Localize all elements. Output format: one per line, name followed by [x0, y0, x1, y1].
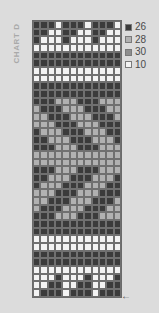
chart-cell [106, 205, 113, 213]
chart-cell [99, 144, 106, 152]
chart-cell [114, 121, 121, 129]
chart-cell [55, 189, 62, 197]
chart-cell [114, 212, 121, 220]
chart-cell [33, 228, 40, 236]
chart-cell [84, 189, 91, 197]
chart-cell [114, 182, 121, 190]
chart-cell [55, 121, 62, 129]
legend-item-10: 10 [125, 59, 146, 71]
chart-cell [70, 205, 77, 213]
chart-cell [106, 113, 113, 121]
chart-cell [40, 243, 47, 251]
chart-cell [70, 243, 77, 251]
chart-cell [84, 136, 91, 144]
legend-item-26: 26 [125, 21, 146, 33]
chart-cell [99, 258, 106, 266]
chart-cell [84, 105, 91, 113]
chart-cell [92, 36, 99, 44]
chart-cell [70, 90, 77, 98]
legend-label: 10 [135, 59, 146, 71]
chart-cell [84, 182, 91, 190]
chart-cell [77, 274, 84, 282]
chart-cell [84, 98, 91, 106]
chart-cell [55, 144, 62, 152]
chart-cell [33, 105, 40, 113]
chart-cell [92, 243, 99, 251]
chart-cell [33, 29, 40, 37]
chart-cell [70, 36, 77, 44]
chart-cell [70, 266, 77, 274]
chart-cell [55, 29, 62, 37]
chart-cell [114, 59, 121, 67]
chart-cell [55, 136, 62, 144]
chart-cell [48, 266, 55, 274]
chart-cell [48, 29, 55, 37]
chart-cell [114, 205, 121, 213]
chart-cell [77, 189, 84, 197]
chart-cell [77, 212, 84, 220]
legend-item-30: 30 [125, 46, 146, 58]
chart-cell [84, 243, 91, 251]
chart-cell [106, 266, 113, 274]
swatch-10 [125, 61, 132, 68]
chart-cell [48, 75, 55, 83]
chart-cell [48, 274, 55, 282]
chart-cell [33, 44, 40, 52]
chart-cell [92, 174, 99, 182]
chart-cell [92, 182, 99, 190]
chart-cell [62, 258, 69, 266]
chart-cell [92, 144, 99, 152]
chart-cell [77, 235, 84, 243]
chart-cell [33, 235, 40, 243]
chart-cell [33, 274, 40, 282]
chart-cell [70, 128, 77, 136]
chart-cell [48, 189, 55, 197]
chart-cell [48, 205, 55, 213]
chart-cell [77, 105, 84, 113]
chart-cell [114, 266, 121, 274]
chart-cell [99, 159, 106, 167]
chart-cell [99, 235, 106, 243]
chart-cell [77, 281, 84, 289]
chart-cell [55, 174, 62, 182]
chart-cell [92, 67, 99, 75]
chart-cell [92, 44, 99, 52]
knitting-chart-grid [32, 20, 122, 298]
chart-cell [55, 182, 62, 190]
chart-cell [40, 36, 47, 44]
chart-cell [40, 29, 47, 37]
chart-cell [70, 121, 77, 129]
chart-cell [70, 274, 77, 282]
chart-cell [40, 182, 47, 190]
chart-cell [92, 166, 99, 174]
chart-cell [33, 159, 40, 167]
chart-cell [40, 105, 47, 113]
chart-cell [62, 59, 69, 67]
chart-cell [106, 189, 113, 197]
chart-cell [55, 281, 62, 289]
chart-cell [84, 197, 91, 205]
chart-cell [84, 121, 91, 129]
chart-cell [40, 113, 47, 121]
chart-cell [55, 274, 62, 282]
chart-cell [84, 274, 91, 282]
chart-cell [84, 128, 91, 136]
chart-cell [48, 113, 55, 121]
legend-label: 30 [135, 46, 146, 58]
chart-cell [70, 228, 77, 236]
arrow-left-icon: ← [121, 291, 131, 301]
chart-cell [70, 52, 77, 60]
chart-cell [106, 128, 113, 136]
chart-cell [84, 228, 91, 236]
chart-cell [40, 67, 47, 75]
chart-cell [92, 235, 99, 243]
chart-cell [114, 220, 121, 228]
chart-cell [33, 144, 40, 152]
chart-cell [106, 159, 113, 167]
chart-cell [114, 281, 121, 289]
chart-cell [92, 90, 99, 98]
legend-label: 26 [135, 21, 146, 33]
chart-title-text: CHART D [12, 23, 21, 63]
chart-cell [106, 121, 113, 129]
chart-cell [92, 121, 99, 129]
